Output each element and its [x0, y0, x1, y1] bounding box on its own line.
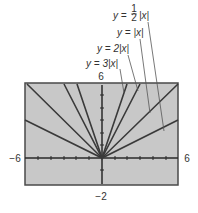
label-3-abs-x: y = 3|x| [85, 58, 118, 69]
fraction-denominator: 2 [131, 12, 137, 23]
ymin-label: −2 [95, 191, 107, 202]
label-abs-x: y = |x| [116, 27, 144, 38]
label-2-abs-x: y = 2|x| [96, 43, 129, 54]
xmax-label: 6 [184, 153, 190, 164]
ymax-label: 6 [98, 71, 104, 82]
graph-figure: y = 1 2 |x| y = |x| y = 2|x| y = 3|x| 6 … [0, 0, 198, 213]
label-half-abs-x-suffix: |x| [139, 10, 149, 21]
label-half-abs-x: y = [112, 10, 127, 21]
xmin-label: −6 [9, 153, 21, 164]
